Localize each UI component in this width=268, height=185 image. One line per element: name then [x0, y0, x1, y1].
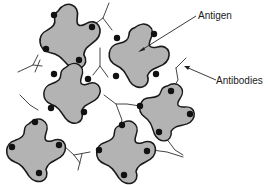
epitope: [51, 71, 57, 77]
epitope: [121, 172, 127, 178]
epitope: [144, 148, 150, 154]
antibodies-label: Antibodies: [216, 75, 263, 86]
antibody: [20, 95, 38, 110]
antibody: [78, 154, 82, 170]
epitope: [43, 46, 49, 52]
epitope: [137, 103, 143, 109]
epitope: [81, 109, 87, 115]
antibody: [100, 66, 108, 77]
epitope: [151, 31, 157, 37]
antigen-antibody-diagram: [0, 0, 268, 185]
epitope: [113, 73, 119, 79]
antigen: [34, 0, 106, 74]
epitope: [153, 71, 159, 77]
epitope: [32, 119, 38, 125]
antibody: [103, 18, 112, 30]
epitope: [36, 170, 42, 176]
antibodies-leader-line: [186, 67, 216, 80]
antibody: [152, 150, 183, 157]
epitope: [119, 122, 125, 128]
epitope: [9, 144, 15, 150]
antibody: [104, 95, 140, 106]
epitope: [89, 24, 95, 30]
epitope: [96, 147, 102, 153]
epitope: [168, 88, 174, 94]
epitope: [187, 111, 193, 117]
epitope: [156, 129, 162, 135]
antigen-label: Antigen: [198, 10, 232, 21]
antigen: [107, 21, 172, 89]
antibody: [18, 55, 38, 72]
epitope: [51, 12, 57, 18]
epitope: [114, 35, 120, 41]
antibody: [95, 3, 109, 24]
antigens: [7, 0, 201, 184]
epitope: [85, 76, 91, 82]
epitope: [48, 105, 54, 111]
epitope: [76, 57, 82, 63]
antibody: [93, 48, 100, 75]
epitope: [56, 142, 62, 148]
